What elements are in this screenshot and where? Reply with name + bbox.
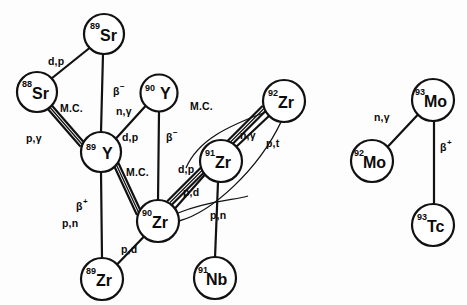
node-sr88-mass: 88 xyxy=(22,79,32,89)
label-beta-plus-y89-zr89: β + xyxy=(76,197,88,212)
node-tc93-symbol: Tc xyxy=(427,218,445,235)
node-mo92-symbol: Mo xyxy=(363,154,386,171)
label-beta-minus-2-sup: − xyxy=(173,128,178,137)
node-mo93[interactable]: 93 Mo xyxy=(412,79,454,121)
node-sr88[interactable]: 88 Sr xyxy=(17,72,57,112)
node-nb91[interactable]: 91 Nb xyxy=(194,257,236,299)
node-zr90-mass: 90 xyxy=(142,208,152,218)
label-beta-plus-1-sup: + xyxy=(83,197,88,206)
node-y90-mass: 90 xyxy=(145,83,155,93)
label-beta-plus-2-glyph: β xyxy=(440,141,447,153)
node-zr91[interactable]: 91 Zr xyxy=(200,140,242,182)
node-zr90[interactable]: 90 Zr xyxy=(137,200,179,242)
nodes-layer: 89 Sr 88 Sr 90 Y 89 Y 92 Zr xyxy=(17,14,454,300)
label-beta-plus-1-glyph: β xyxy=(76,200,83,212)
node-zr89[interactable]: 89 Zr xyxy=(81,258,123,300)
label-beta-minus-2-glyph: β xyxy=(166,131,173,143)
label-dp-y90-y89: d,p xyxy=(122,131,138,143)
label-ngamma-zr91-zr92: n,γ xyxy=(240,129,256,141)
label-dp-zr90-zr91: d,p xyxy=(178,163,194,175)
node-tc93[interactable]: 93 Tc xyxy=(412,204,454,246)
node-zr89-mass: 89 xyxy=(86,266,96,276)
label-pd-zr89-zr90: p,d xyxy=(121,243,137,255)
label-beta-plus-2-sup: + xyxy=(447,138,452,147)
node-mo92[interactable]: 92 Mo xyxy=(351,140,393,182)
label-mc-sr88-y89: M.C. xyxy=(60,102,83,114)
node-sr89-symbol: Sr xyxy=(100,27,117,44)
node-sr88-symbol: Sr xyxy=(32,85,49,102)
node-zr91-symbol: Zr xyxy=(215,154,231,171)
node-tc93-mass: 93 xyxy=(417,212,427,222)
reaction-network-svg: 89 Sr 88 Sr 90 Y 89 Y 92 Zr xyxy=(0,0,467,305)
label-mc-y89-zr90: M.C. xyxy=(126,166,149,178)
label-pn-zr90-nb91: p,n xyxy=(210,209,226,221)
node-y89-symbol: Y xyxy=(102,145,113,162)
node-mo93-symbol: Mo xyxy=(424,93,447,110)
node-y90[interactable]: 90 Y xyxy=(141,75,178,112)
edge-mo92-mo93 xyxy=(387,114,419,148)
nuclide-reaction-diagram: 89 Sr 88 Sr 90 Y 89 Y 92 Zr xyxy=(0,0,467,305)
label-beta-minus-sr89-y89: β − xyxy=(113,82,125,97)
label-pd-zr92-zr91: p,d xyxy=(183,186,199,198)
node-zr92-symbol: Zr xyxy=(278,94,294,111)
node-y90-symbol: Y xyxy=(160,85,171,102)
label-beta-minus-1-sup: − xyxy=(120,82,125,91)
node-zr89-symbol: Zr xyxy=(96,272,112,289)
edge-sr89-y89 xyxy=(101,54,103,132)
node-y89[interactable]: 89 Y xyxy=(81,132,121,172)
node-zr90-symbol: Zr xyxy=(152,214,168,231)
label-pgamma-sr88-y89: p,γ xyxy=(26,132,42,144)
node-y89-mass: 89 xyxy=(86,142,96,152)
label-dp-sr88-sr89: d,p xyxy=(48,55,64,67)
label-ngamma-mo92-mo93: n,γ xyxy=(374,111,390,123)
node-zr92[interactable]: 92 Zr xyxy=(263,80,305,122)
label-beta-minus-1-glyph: β xyxy=(113,85,120,97)
label-ngamma-y90-y89: n,γ xyxy=(116,105,132,117)
node-nb91-symbol: Nb xyxy=(206,271,228,288)
node-zr91-mass: 91 xyxy=(205,148,215,158)
label-pn-y89-zr89: p,n xyxy=(62,217,78,229)
label-pt-zr92-zr90: p,t xyxy=(266,137,280,149)
label-beta-minus-y90-zr90: β − xyxy=(166,128,178,143)
node-sr89[interactable]: 89 Sr xyxy=(84,14,124,54)
label-beta-plus-mo93-tc93: β + xyxy=(440,138,452,153)
node-zr92-mass: 92 xyxy=(268,88,278,98)
label-mc-zr90-zr92: M.C. xyxy=(190,100,213,112)
node-sr89-mass: 89 xyxy=(90,21,100,31)
edge-y89-zr89 xyxy=(101,172,102,258)
edge-y90-zr90 xyxy=(158,112,159,201)
